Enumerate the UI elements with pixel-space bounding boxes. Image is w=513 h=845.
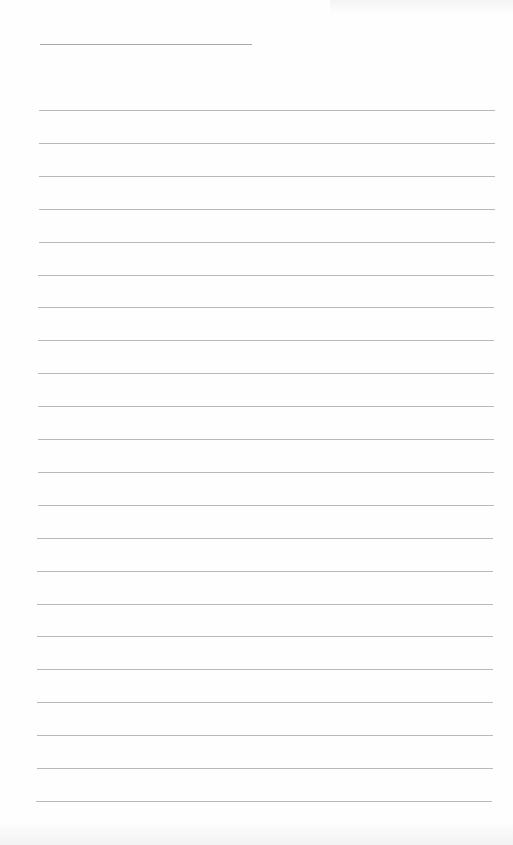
bleed-through-artifact-top bbox=[330, 0, 513, 14]
bleed-through-artifact-bottom bbox=[0, 822, 513, 845]
ruled-line bbox=[39, 110, 495, 111]
ruled-line bbox=[37, 604, 493, 605]
ruled-line bbox=[38, 472, 494, 473]
ruled-line bbox=[37, 702, 493, 703]
ruled-line bbox=[38, 439, 494, 440]
ruled-line bbox=[38, 406, 494, 407]
ruled-line bbox=[36, 801, 492, 802]
ruled-line bbox=[39, 209, 495, 210]
lined-paper-page bbox=[0, 0, 513, 845]
ruled-line bbox=[39, 242, 495, 243]
ruled-line bbox=[37, 669, 493, 670]
ruled-line bbox=[37, 571, 493, 572]
name-line bbox=[40, 44, 252, 45]
ruled-line bbox=[38, 340, 494, 341]
ruled-line bbox=[37, 538, 493, 539]
ruled-line bbox=[37, 768, 493, 769]
ruled-line bbox=[38, 275, 494, 276]
ruled-line bbox=[38, 307, 494, 308]
ruled-line bbox=[38, 505, 494, 506]
ruled-line bbox=[39, 176, 495, 177]
ruled-line bbox=[37, 636, 493, 637]
ruled-line bbox=[38, 373, 494, 374]
ruled-line bbox=[37, 735, 493, 736]
ruled-line bbox=[39, 143, 495, 144]
